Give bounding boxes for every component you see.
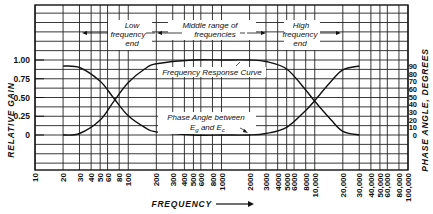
- y-right-axis-title: PHASE ANGLE, DEGREES: [420, 48, 430, 171]
- y-left-axis-title: RELATIVE GAIN: [6, 82, 16, 157]
- frequency-curve-pointer: [236, 62, 240, 66]
- y-left-tick-label: 0: [25, 130, 30, 140]
- x-tick-label: 800: [209, 172, 218, 186]
- x-tick-label: 4000: [274, 172, 283, 190]
- frequency-response-curve-label: Frequency Response Curve: [162, 68, 262, 77]
- low-end-label: Low: [125, 21, 141, 30]
- x-tick-label: 30: [76, 172, 85, 181]
- y-left-tick-label: 1.00: [13, 55, 30, 65]
- x-tick-label: 30,000: [355, 172, 364, 197]
- frequency-response-chart: 1020304050608010020030040050060080010002…: [0, 0, 433, 214]
- x-tick-label: 20,000: [339, 172, 348, 197]
- x-axis-arrow-icon: [216, 201, 254, 207]
- x-tick-label: 1000: [218, 172, 227, 190]
- x-tick-label: 6000: [290, 172, 299, 190]
- x-tick-label: 300: [169, 172, 178, 186]
- y-right-tick-label: 0: [413, 131, 417, 140]
- y-left-tick-labels: 1.000.750.500.250: [13, 55, 44, 140]
- x-tick-label: 600: [197, 172, 206, 186]
- x-tick-label: 10,000: [311, 172, 320, 197]
- x-tick-label: 40,000: [367, 172, 376, 197]
- high-end-label-2: frequency: [282, 30, 318, 39]
- x-tick-label: 8000: [302, 172, 311, 190]
- x-tick-label: 100,000: [404, 172, 413, 201]
- phase-angle-label: Phase Angle between: [167, 113, 245, 122]
- x-tick-label: 40: [87, 172, 96, 181]
- low-end-label-3: end: [125, 39, 139, 48]
- x-tick-label: 60,000: [383, 172, 392, 197]
- high-end-label: High: [293, 21, 310, 30]
- x-tick-label: 100: [124, 172, 133, 186]
- low-end-label-2: frequency: [110, 30, 146, 39]
- x-tick-label: 20: [59, 172, 68, 181]
- x-tick-label: 60: [104, 172, 113, 181]
- middle-range-label-2: frequencies: [194, 30, 235, 39]
- x-tick-labels: 1020304050608010020030040050060080010002…: [31, 172, 413, 201]
- annotations: Low frequency end Middle range of freque…: [82, 20, 341, 134]
- phase-angle-label-2: Eg and Ec: [190, 123, 225, 133]
- x-tick-label: 10: [31, 172, 40, 181]
- high-end-label-3: end: [293, 39, 307, 48]
- x-tick-label: 2000: [246, 172, 255, 190]
- x-axis-title: FREQUENCY: [151, 199, 212, 209]
- x-tick-label: 80: [115, 172, 124, 181]
- x-tick-label: 200: [152, 172, 161, 186]
- y-right-tick-labels: 9080706050403020100: [409, 62, 417, 140]
- x-tick-label: 80,000: [395, 172, 404, 197]
- x-tick-label: 400: [180, 172, 189, 186]
- middle-range-label: Middle range of: [182, 21, 238, 30]
- x-tick-label: 3000: [262, 172, 271, 190]
